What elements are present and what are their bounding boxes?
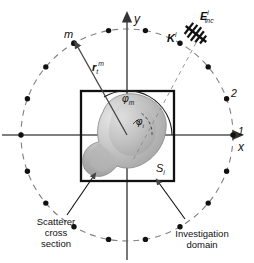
phi-m-sub: m (129, 99, 134, 106)
position-vector-label: rtm (92, 60, 104, 75)
antenna-dot[interactable] (230, 132, 235, 137)
wavevector-symbol: K (167, 32, 175, 44)
phi-m-symbol: φ (122, 92, 129, 104)
antenna-dot[interactable] (25, 169, 30, 174)
incident-field-sup: i (207, 9, 209, 16)
antenna-dot[interactable] (106, 237, 111, 242)
antenna-dot[interactable] (143, 237, 148, 242)
incident-field-label: Eiinc (200, 9, 214, 24)
antenna-dot-m[interactable] (71, 40, 77, 46)
antenna-dot[interactable] (18, 132, 23, 137)
scatterer-leader-line (67, 177, 93, 215)
antenna-dot[interactable] (43, 64, 48, 69)
antenna-dot[interactable] (143, 28, 148, 33)
scatterer-caption: Scatterer cross section (8, 216, 104, 250)
position-vector-sup: m (98, 60, 104, 67)
phi-m-label: φm (122, 93, 134, 107)
scattering-diagram: y x m 1 2 rtm Ki Eiinc φm φi Si Scattere… (0, 0, 254, 263)
source-position-label: m (64, 29, 73, 41)
antenna-dot[interactable] (43, 200, 48, 205)
incident-field-sub: inc (205, 17, 214, 24)
antenna-dot[interactable] (224, 169, 229, 174)
position-vector-sub: t (96, 68, 98, 75)
investigation-leader-line (159, 183, 185, 219)
phi-i-sub: i (143, 122, 144, 129)
phi-i-label: φi (136, 117, 144, 130)
domain-label: Si (156, 163, 165, 176)
antenna-dot[interactable] (177, 41, 182, 46)
antenna-dot[interactable] (106, 28, 111, 33)
wavevector-sup: i (175, 31, 177, 38)
antenna-dot[interactable] (224, 96, 229, 101)
antenna-label-2: 2 (231, 88, 237, 99)
antenna-dot[interactable] (206, 200, 211, 205)
antenna-dot[interactable] (206, 64, 211, 69)
antenna-label-1: 1 (238, 126, 244, 137)
antenna-dot[interactable] (25, 96, 30, 101)
wavevector-label: Ki (167, 31, 176, 44)
domain-sub: i (163, 169, 165, 176)
investigation-caption: Investigation domain (152, 228, 252, 250)
y-axis-label: y (134, 13, 140, 26)
x-axis-label: x (238, 141, 244, 154)
